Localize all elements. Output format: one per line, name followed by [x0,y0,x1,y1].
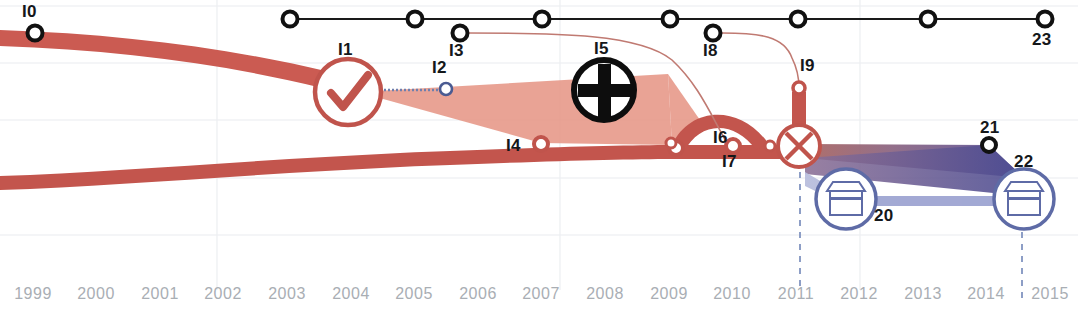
arch-mid-node[interactable] [666,138,676,148]
label-22: 22 [1014,152,1034,172]
label-i5: I5 [594,39,609,59]
node-21-marker[interactable] [982,138,996,152]
x-tick-2015: 2015 [1031,285,1069,303]
label-i6: I6 [713,128,728,148]
node-i7-marker[interactable] [726,139,740,153]
label-i8: I8 [703,41,718,61]
label-i2: I2 [432,58,447,78]
top-node-6[interactable] [921,12,936,27]
x-tick-2003: 2003 [268,285,306,303]
node-i4-marker[interactable] [534,137,548,151]
top-node-4[interactable] [663,12,678,27]
top-node-1[interactable] [283,12,298,27]
node-i2-marker[interactable] [440,83,452,95]
label-i1: I1 [338,40,353,60]
shop-circle-icon-22[interactable] [994,169,1054,229]
top-node-5[interactable] [791,12,806,27]
label-20: 20 [874,206,894,226]
x-tick-2006: 2006 [459,285,497,303]
x-tick-2011: 2011 [778,285,814,303]
top-node-3[interactable] [535,12,550,27]
label-i3: I3 [449,41,464,61]
chart-canvas: I0 I1 I2 I3 I4 I5 I6 I7 I8 I9 20 21 22 2… [0,0,1078,314]
x-tick-2010: 2010 [713,285,751,303]
check-circle-icon[interactable] [315,59,381,125]
x-tick-2012: 2012 [840,285,878,303]
plus-circle-icon[interactable] [574,60,634,120]
x-tick-2001: 2001 [141,285,179,303]
x-tick-2009: 2009 [650,285,688,303]
x-tick-2008: 2008 [586,285,624,303]
x-tick-2005: 2005 [395,285,433,303]
x-tick-2000: 2000 [77,285,115,303]
top-node-7[interactable] [1038,12,1053,27]
label-i7: I7 [722,152,737,172]
timeline-flow-chart [0,0,1078,314]
label-21: 21 [980,118,1000,138]
node-i8-marker[interactable] [706,26,721,41]
x-tick-2002: 2002 [204,285,242,303]
x-tick-2004: 2004 [332,285,370,303]
label-i0: I0 [22,2,37,22]
node-i0-marker[interactable] [28,26,43,41]
arch-right-node[interactable] [765,141,775,151]
label-i4: I4 [506,136,521,156]
shop-circle-icon-20[interactable] [816,169,876,229]
close-circle-icon[interactable] [778,125,820,167]
x-tick-1999: 1999 [14,285,52,303]
label-23: 23 [1032,30,1052,50]
upper-red-band [0,30,360,100]
top-node-2[interactable] [408,12,423,27]
node-i9-marker[interactable] [793,82,805,94]
x-tick-2013: 2013 [904,285,942,303]
x-tick-2007: 2007 [522,285,560,303]
node-i3-marker[interactable] [453,26,468,41]
x-tick-2014: 2014 [967,285,1005,303]
label-i9: I9 [800,56,815,76]
